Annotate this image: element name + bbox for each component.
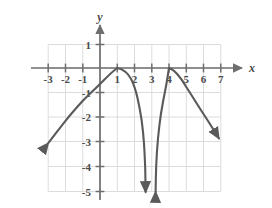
x-axis-label: x bbox=[248, 61, 255, 75]
xtick-label--2: -2 bbox=[61, 73, 71, 85]
ytick-label--3: -3 bbox=[82, 136, 92, 148]
xtick-label--3: -3 bbox=[44, 73, 54, 85]
xtick-label--1: -1 bbox=[78, 73, 87, 85]
xtick-label-3: 3 bbox=[149, 73, 155, 85]
xtick-label-6: 6 bbox=[201, 73, 207, 85]
xtick-label-7: 7 bbox=[218, 73, 224, 85]
figure-background bbox=[0, 0, 272, 208]
xtick-label-1: 1 bbox=[115, 73, 121, 85]
coordinate-plane-svg: -3 -2 -1 1 2 3 4 5 6 7 1 -1 -2 -3 -4 -5 … bbox=[0, 0, 272, 208]
graph-figure: -3 -2 -1 1 2 3 4 5 6 7 1 -1 -2 -3 -4 -5 … bbox=[0, 0, 272, 208]
ytick-label--5: -5 bbox=[82, 186, 92, 198]
y-axis-label: y bbox=[95, 10, 103, 24]
ytick-label--4: -4 bbox=[82, 161, 92, 173]
ytick-label--2: -2 bbox=[82, 111, 92, 123]
ytick-label-1: 1 bbox=[86, 39, 92, 51]
